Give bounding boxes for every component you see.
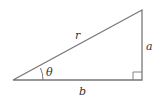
label-b: b xyxy=(79,85,86,98)
right-triangle-diagram: r a θ b xyxy=(0,0,161,103)
label-a: a xyxy=(146,40,153,53)
triangle xyxy=(13,10,142,80)
label-theta: θ xyxy=(46,66,53,79)
angle-arc xyxy=(41,68,44,80)
label-r: r xyxy=(75,29,81,42)
right-angle-marker xyxy=(133,72,142,80)
